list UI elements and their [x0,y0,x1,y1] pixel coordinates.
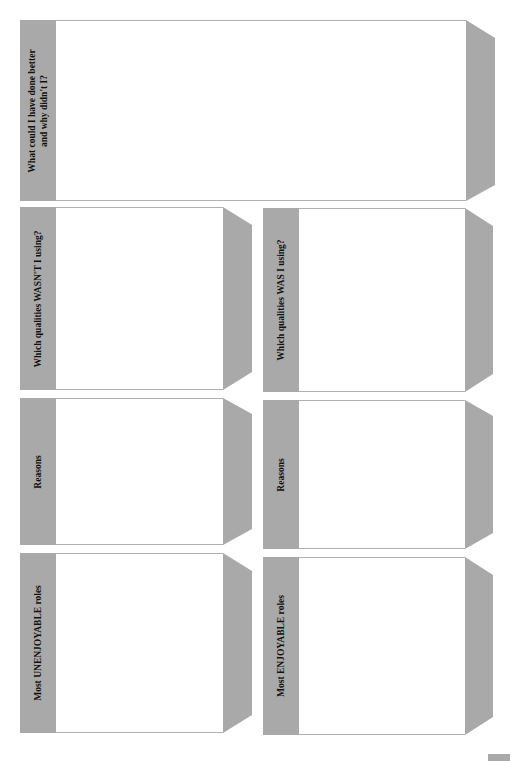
label-reasons-left: Reasons [32,455,44,488]
box-reasons-left: Reasons [20,398,252,545]
field-done-better[interactable] [56,20,466,201]
box-qualities-wasnt-using: Which qualities WASN'T I using? [20,207,252,390]
label-qualities-was-using: Which qualities WAS I using? [275,239,287,360]
flap-reasons-right [465,400,493,549]
box-qualities-was-using: Which qualities WAS I using? [263,208,493,392]
flap-unenjoyable-roles [223,553,252,733]
field-qualities-wasnt-using[interactable] [56,207,223,390]
field-unenjoyable-roles[interactable] [56,553,223,733]
label-unenjoyable-roles: Most UNENJOYABLE roles [32,585,44,701]
field-reasons-right[interactable] [299,400,465,549]
flap-enjoyable-roles [465,557,493,735]
field-reasons-left[interactable] [56,398,223,545]
box-unenjoyable-roles: Most UNENJOYABLE roles [20,553,252,733]
flap-reasons-left [223,398,252,545]
field-qualities-was-using[interactable] [299,208,465,392]
label-done-better: What could I have done better and why di… [20,20,56,201]
page-corner-mark [488,754,510,761]
flap-qualities-wasnt-using [223,207,252,390]
label-qualities-wasnt-using: Which qualities WASN'T I using? [32,230,44,367]
box-reasons-right: Reasons [263,400,493,549]
label-done-better-line1: What could I have done better [26,49,38,172]
field-enjoyable-roles[interactable] [299,557,465,735]
label-reasons-right: Reasons [275,458,287,491]
flap-done-better [466,20,495,201]
box-enjoyable-roles: Most ENJOYABLE roles [263,557,493,735]
label-enjoyable-roles: Most ENJOYABLE roles [275,595,287,697]
flap-qualities-was-using [465,208,493,392]
label-done-better-line2: and why didn't I? [38,49,50,172]
box-done-better: What could I have done better and why di… [20,20,495,201]
